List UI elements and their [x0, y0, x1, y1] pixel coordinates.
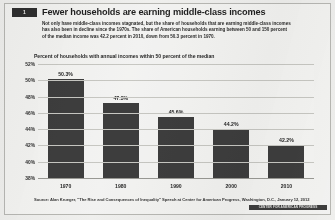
- chart-subtitle: Percent of households with annual income…: [34, 53, 214, 59]
- y-axis-tick-label: 48%: [25, 94, 35, 99]
- source-note: Source: Alan Krueger, "The Rise and Cons…: [34, 197, 324, 202]
- figure-number-label: 1: [23, 10, 26, 15]
- figure-deck: Not only have middle-class incomes stagn…: [42, 21, 292, 40]
- y-axis-tick-label: 46%: [25, 110, 35, 115]
- y-gridline: 46%: [38, 113, 314, 114]
- y-axis-tick-label: 50%: [25, 78, 35, 83]
- bar[interactable]: [213, 129, 249, 179]
- y-axis-tick-label: 40%: [25, 159, 35, 164]
- figure-header: 1 Fewer households are earning middle-cl…: [12, 7, 318, 40]
- x-axis-tick-label: 2000: [226, 183, 237, 189]
- bar[interactable]: [158, 117, 194, 179]
- y-gridline: 40%: [38, 162, 314, 163]
- y-axis-tick-label: 42%: [25, 143, 35, 148]
- bar-value-label: 50.3%: [58, 71, 73, 77]
- y-gridline: 52%: [38, 64, 314, 65]
- x-axis-tick-label: 1970: [60, 183, 71, 189]
- figure-title: Fewer households are earning middle-clas…: [42, 7, 265, 17]
- y-axis-tick-label: 44%: [25, 127, 35, 132]
- y-axis-tick-label: 52%: [25, 62, 35, 67]
- y-gridline: 44%: [38, 129, 314, 130]
- figure-number-badge: 1: [12, 8, 37, 17]
- y-gridline: 48%: [38, 97, 314, 98]
- y-gridline: 38%: [38, 178, 314, 179]
- chart-plot-wrapper: 50.3%197047.3%198045.6%199044.2%200042.2…: [12, 61, 318, 193]
- credit-bar: CENTER FOR AMERICAN PROGRESS: [249, 205, 327, 210]
- y-axis-tick-label: 38%: [25, 176, 35, 181]
- y-gridline: 50%: [38, 80, 314, 81]
- x-axis-tick-label: 1980: [115, 183, 126, 189]
- y-gridline: 42%: [38, 145, 314, 146]
- chart-plot-area: 50.3%197047.3%198045.6%199044.2%200042.2…: [38, 65, 314, 179]
- x-axis-tick-label: 2010: [281, 183, 292, 189]
- bar-value-label: 42.2%: [279, 137, 294, 143]
- figure-container: 1 Fewer households are earning middle-cl…: [0, 0, 335, 220]
- title-row: 1 Fewer households are earning middle-cl…: [12, 7, 318, 17]
- x-axis-tick-label: 1990: [170, 183, 181, 189]
- bar-value-label: 44.2%: [224, 121, 239, 127]
- credit-label: CENTER FOR AMERICAN PROGRESS: [249, 205, 327, 210]
- bar[interactable]: [103, 103, 139, 179]
